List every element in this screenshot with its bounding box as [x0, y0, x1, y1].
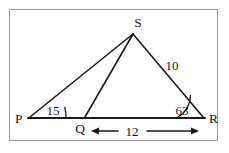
- angle-label-r: 63: [176, 103, 189, 118]
- vertex-label-p: P: [15, 111, 23, 126]
- vertex-label-r: R: [209, 111, 218, 126]
- segment-ps: [30, 34, 133, 117]
- dimension-arrowhead-right: [191, 128, 199, 135]
- segment-sr: [133, 34, 203, 117]
- dimension-arrowhead-left: [91, 128, 99, 135]
- vertex-label-q: Q: [75, 121, 85, 136]
- segment-qs: [85, 34, 133, 117]
- dimension-label-qr: 12: [126, 124, 139, 139]
- geometry-figure: P Q R S 15 63 10 12: [0, 0, 229, 153]
- angle-label-p: 15: [47, 103, 60, 118]
- figure-canvas: P Q R S 15 63 10 12: [0, 0, 229, 153]
- vertex-label-s: S: [134, 15, 142, 30]
- angle-arc-p: [65, 108, 66, 118]
- side-label-sr: 10: [166, 58, 179, 73]
